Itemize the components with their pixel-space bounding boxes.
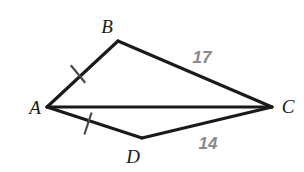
tick-mark-ad bbox=[84, 113, 91, 135]
segment-ab bbox=[47, 41, 118, 107]
vertex-label-d: D bbox=[126, 147, 140, 166]
vertex-label-b: B bbox=[101, 17, 113, 36]
vertex-label-a: A bbox=[29, 98, 41, 117]
vertex-label-c: C bbox=[282, 97, 295, 116]
segment-ad bbox=[47, 107, 142, 138]
side-length-bc: 17 bbox=[193, 49, 212, 66]
side-length-dc: 14 bbox=[199, 135, 218, 152]
figure-canvas bbox=[0, 0, 304, 172]
geometry-diagram: A B C D 17 14 bbox=[0, 0, 304, 172]
